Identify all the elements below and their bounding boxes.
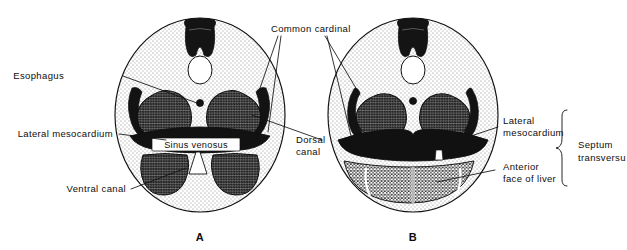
figure-canvas: Sinus venosus A — [0, 0, 627, 250]
label-common-cardinal: Common cardinal — [271, 23, 351, 34]
label-septum-transversum-line2: transversu — [578, 152, 626, 163]
label-esophagus: Esophagus — [13, 70, 64, 81]
esophagus-marker-a — [196, 99, 203, 106]
panel-a-embryo: Sinus venosus A — [115, 17, 285, 243]
label-dorsal-canal-line1: Dorsal — [296, 134, 326, 145]
label-lateral-mesocardium-left: Lateral mesocardium — [18, 128, 113, 139]
text-labels: Esophagus Lateral mesocardium Ventral ca… — [13, 23, 626, 194]
label-anterior-face-liver-line2: face of liver — [503, 173, 556, 184]
panel-b-embryo: B — [328, 17, 498, 243]
foregut-b — [401, 56, 425, 84]
panel-letter-a: A — [196, 231, 204, 243]
septum-transversum-brace — [556, 110, 567, 186]
band-notch-b — [435, 150, 443, 160]
label-lateral-mesocardium-right-line2: mesocardium — [503, 127, 564, 138]
panel-letter-b: B — [409, 231, 417, 243]
label-septum-transversum-line1: Septum — [578, 139, 613, 150]
label-lateral-mesocardium-right-line1: Lateral — [503, 115, 535, 126]
esophagus-marker-b — [409, 97, 416, 104]
anatomy-figure: Sinus venosus A — [0, 0, 627, 250]
sinus-venosus-label: Sinus venosus — [164, 140, 228, 150]
foregut-a — [188, 56, 212, 84]
label-anterior-face-liver-line1: Anterior — [503, 161, 539, 172]
label-ventral-canal: Ventral canal — [67, 183, 126, 194]
label-dorsal-canal-line2: canal — [296, 146, 320, 157]
transverse-dark-band-b — [338, 129, 488, 161]
